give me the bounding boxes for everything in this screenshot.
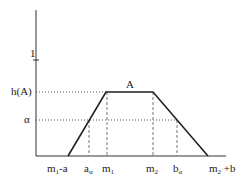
label-a-alpha: aα [84,163,93,176]
label-height: h(A) [11,86,32,97]
label-one: 1 [30,48,36,59]
label-m1: m1 [102,163,114,176]
label-m1-minus-a: m1-a [47,163,68,176]
label-set-a: A [126,79,134,90]
label-b-alpha: bα [173,163,182,176]
label-alpha: α [24,114,30,125]
trapezoid-diagram [0,0,246,183]
label-m2: m2 [146,163,158,176]
label-m2-plus-b: m2 +b [209,163,236,176]
